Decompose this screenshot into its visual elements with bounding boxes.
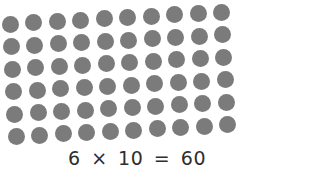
array-dot: [97, 33, 114, 50]
array-dot: [215, 49, 232, 66]
array-dot: [2, 16, 19, 33]
array-dot: [217, 71, 234, 88]
array-dot: [5, 83, 22, 100]
array-dot: [145, 53, 162, 70]
array-dot: [78, 124, 95, 141]
array-dot: [125, 122, 142, 139]
factor-rows: 6: [68, 147, 81, 169]
array-dot: [50, 35, 67, 52]
array-dot: [146, 75, 163, 92]
array-dot: [98, 55, 115, 72]
array-dot: [29, 82, 46, 99]
array-dot: [143, 8, 160, 25]
array-dot: [149, 120, 166, 137]
array-dot: [8, 128, 25, 145]
array-dot: [96, 10, 113, 27]
array-dot: [27, 59, 44, 76]
array-dot: [49, 13, 66, 30]
array-dot: [119, 9, 136, 26]
array-dot: [31, 127, 48, 144]
array-dot: [219, 116, 236, 133]
array-dot: [100, 100, 117, 117]
array-dot: [213, 4, 230, 21]
dot-array: [0, 0, 332, 150]
array-dot: [144, 30, 161, 47]
multiplication-equation: 6 × 10 = 60: [68, 147, 206, 169]
array-dot: [121, 54, 138, 71]
array-dot: [6, 106, 23, 123]
array-dot: [192, 50, 209, 67]
array-dot: [196, 118, 213, 135]
array-dot: [171, 96, 188, 113]
equals-sign: =: [154, 147, 170, 169]
array-dot: [123, 77, 140, 94]
array-dot: [172, 119, 189, 136]
array-dot: [30, 104, 47, 121]
array-dot: [76, 79, 93, 96]
factor-columns: 10: [118, 147, 143, 169]
array-dot: [3, 38, 20, 55]
array-dot: [77, 102, 94, 119]
array-dot: [74, 57, 91, 74]
array-dot: [73, 34, 90, 51]
array-dot: [25, 14, 42, 31]
array-dot: [55, 125, 72, 142]
array-dot: [120, 32, 137, 49]
product: 60: [181, 147, 206, 169]
array-dot: [72, 12, 89, 29]
array-dot: [218, 94, 235, 111]
array-dot: [167, 29, 184, 46]
array-dot: [147, 98, 164, 115]
array-dot: [170, 74, 187, 91]
array-dot: [166, 6, 183, 23]
array-dot: [4, 61, 21, 78]
array-dot: [168, 51, 185, 68]
array-dot: [51, 58, 68, 75]
array-dot: [26, 37, 43, 54]
array-dot: [99, 78, 116, 95]
times-sign: ×: [91, 147, 107, 169]
array-dot: [214, 26, 231, 43]
array-dot: [102, 123, 119, 140]
array-dot: [193, 73, 210, 90]
array-dot: [190, 5, 207, 22]
array-dot: [191, 28, 208, 45]
array-dot: [124, 99, 141, 116]
array-dot: [194, 95, 211, 112]
array-dot: [52, 80, 69, 97]
array-dot: [53, 103, 70, 120]
